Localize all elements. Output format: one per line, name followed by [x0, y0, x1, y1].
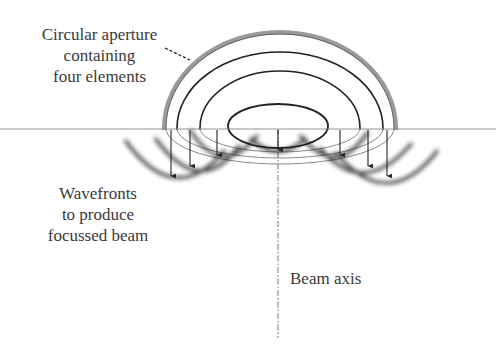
wavefronts-label-line1: Wavefronts — [28, 183, 168, 204]
aperture-label-line2: containing — [22, 45, 177, 66]
element-ring-3 — [177, 52, 383, 204]
beam-axis-label: Beam axis — [290, 268, 361, 289]
wavefront-left-2 — [155, 138, 240, 171]
wavefronts-label: Wavefronts to produce focussed beam — [28, 183, 168, 246]
aperture-label-line3: four elements — [22, 66, 177, 87]
wavefronts — [125, 130, 438, 183]
aperture-rim — [164, 32, 396, 224]
aperture-label: Circular aperture containing four elemen… — [22, 24, 177, 87]
aperture-label-line1: Circular aperture — [22, 24, 177, 45]
element-ring-2 — [200, 71, 360, 185]
wavefronts-label-line3: focussed beam — [28, 225, 168, 246]
wavefronts-label-line2: to produce — [28, 204, 168, 225]
aperture-rings-upper — [164, 32, 396, 224]
